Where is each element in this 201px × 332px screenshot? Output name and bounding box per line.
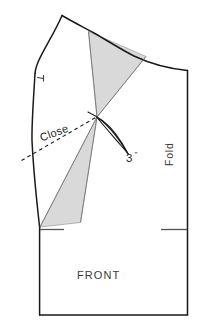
dart-measurement-label: 3" — [126, 150, 138, 164]
dart-measurement-value: 3 — [126, 152, 133, 164]
front-label: FRONT — [77, 269, 120, 281]
inch-mark-icon: " — [134, 150, 137, 159]
pattern-diagram: Close 3" Fold FRONT — [0, 0, 201, 332]
pattern-drawing — [0, 0, 201, 332]
fold-label: Fold — [163, 142, 175, 166]
